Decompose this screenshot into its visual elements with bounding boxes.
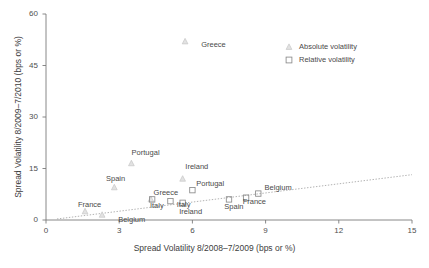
x-tick-label: 12 xyxy=(327,226,351,235)
point-label-portugal: Portugal xyxy=(196,179,224,188)
legend-markers xyxy=(286,44,292,63)
legend-label-triangle: Absolute volatility xyxy=(299,42,357,51)
x-tick-label: 0 xyxy=(34,226,58,235)
legend-marker-square xyxy=(286,57,292,63)
data-point-greece xyxy=(182,38,188,44)
data-point-spain xyxy=(111,184,117,190)
point-label-belgium: Belgium xyxy=(118,215,145,224)
x-axis-title: Spread Volatility 8/2008–7/2009 (bps or … xyxy=(0,243,429,253)
data-point-belgium xyxy=(99,212,105,218)
point-label-belgium: Belgium xyxy=(265,183,292,192)
data-point-ireland xyxy=(180,176,186,182)
point-label-portugal: Portugal xyxy=(132,148,160,157)
point-label-spain: Spain xyxy=(106,174,125,183)
point-label-greece: Greece xyxy=(154,188,179,197)
point-label-italy: Italy xyxy=(150,201,164,210)
point-label-france: France xyxy=(78,200,101,209)
data-point-italy xyxy=(168,198,173,203)
point-label-ireland: Ireland xyxy=(185,162,208,171)
point-label-ireland: Ireland xyxy=(179,207,202,216)
y-axis-title: Spread Volatility 8/2009–7/2010 (bps or … xyxy=(13,7,23,227)
point-label-greece: Greece xyxy=(201,40,226,49)
point-label-spain: Spain xyxy=(224,202,243,211)
legend-label-square: Relative volatility xyxy=(299,55,355,64)
x-tick-label: 6 xyxy=(180,226,204,235)
point-label-france: France xyxy=(243,197,266,206)
data-point-france xyxy=(82,208,88,214)
x-tick-label: 15 xyxy=(400,226,424,235)
data-point-portugal xyxy=(190,187,195,192)
data-point-portugal xyxy=(129,160,135,166)
x-tick-label: 3 xyxy=(107,226,131,235)
x-tick-label: 9 xyxy=(254,226,278,235)
legend-marker-triangle xyxy=(286,44,292,50)
